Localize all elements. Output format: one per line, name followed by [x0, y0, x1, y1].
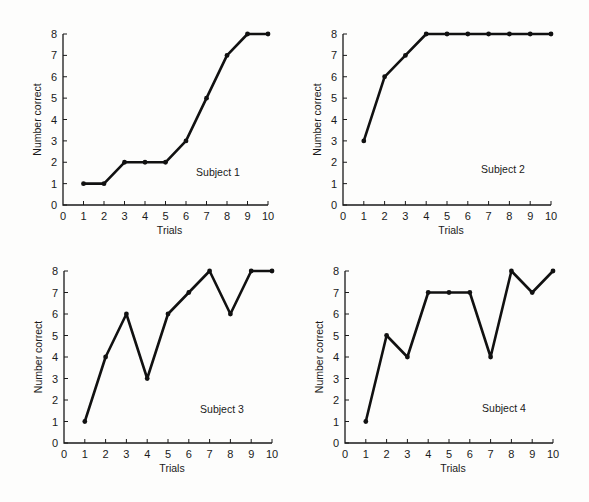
y-axis-label: Number correct — [31, 83, 43, 155]
subject-label: Subject 2 — [481, 163, 525, 175]
data-point — [403, 53, 408, 58]
axes — [64, 271, 272, 443]
data-point — [488, 355, 493, 360]
data-point — [207, 269, 212, 274]
data-point — [486, 32, 491, 37]
y-tick-label: 6 — [52, 308, 58, 320]
data-point — [445, 32, 450, 37]
data-point — [102, 181, 107, 186]
x-axis-label: Trials — [159, 462, 184, 474]
y-tick-label: 4 — [51, 114, 57, 126]
x-tick-label: 2 — [382, 210, 388, 222]
x-tick-label: 9 — [248, 448, 254, 460]
data-point — [384, 333, 389, 338]
x-tick-label: 7 — [486, 210, 492, 222]
x-tick-label: 5 — [444, 210, 450, 222]
x-tick-label: 4 — [425, 448, 431, 460]
y-tick-label: 6 — [331, 71, 337, 83]
data-point — [228, 312, 233, 317]
y-tick-label: 0 — [331, 199, 337, 211]
y-tick-label: 5 — [333, 330, 339, 342]
y-tick-label: 2 — [52, 394, 58, 406]
y-axis-label: Number correct — [32, 321, 44, 393]
y-tick-label: 0 — [52, 437, 58, 449]
x-tick-label: 7 — [488, 448, 494, 460]
x-axis-label: Trials — [438, 224, 463, 236]
y-tick-label: 1 — [51, 178, 57, 190]
y-tick-label: 5 — [51, 92, 57, 104]
x-tick-label: 2 — [103, 448, 109, 460]
data-point — [184, 138, 189, 143]
x-tick-label: 0 — [340, 210, 346, 222]
x-tick-label: 4 — [144, 448, 150, 460]
x-tick-label: 10 — [545, 210, 557, 222]
y-tick-label: 2 — [331, 156, 337, 168]
data-point — [166, 312, 171, 317]
data-point — [270, 269, 275, 274]
data-line — [364, 34, 551, 141]
data-point — [249, 269, 254, 274]
panel-subject-4: 012345678012345678910Subject 4TrialsNumb… — [313, 265, 559, 474]
y-axis-label: Number correct — [313, 321, 325, 393]
axes — [343, 34, 551, 205]
y-tick-label: 7 — [331, 49, 337, 61]
subject-label: Subject 3 — [200, 403, 244, 415]
x-tick-label: 9 — [527, 210, 533, 222]
x-tick-label: 0 — [60, 210, 66, 222]
data-point — [509, 269, 514, 274]
data-point — [225, 53, 230, 58]
x-tick-label: 7 — [203, 210, 209, 222]
x-tick-label: 3 — [123, 448, 129, 460]
data-point — [528, 32, 533, 37]
x-tick-label: 2 — [101, 210, 107, 222]
y-tick-label: 4 — [331, 114, 337, 126]
panel-subject-2: 012345678012345678910Subject 2TrialsNumb… — [311, 28, 557, 236]
data-point — [447, 290, 452, 295]
y-tick-label: 1 — [52, 416, 58, 428]
x-tick-label: 8 — [506, 210, 512, 222]
x-tick-label: 8 — [508, 448, 514, 460]
panel-subject-3: 012345678012345678910Subject 3TrialsNumb… — [32, 265, 278, 474]
x-tick-label: 3 — [404, 448, 410, 460]
x-tick-label: 1 — [82, 448, 88, 460]
data-point — [465, 32, 470, 37]
y-tick-label: 8 — [52, 265, 58, 277]
x-tick-label: 6 — [467, 448, 473, 460]
data-point — [551, 269, 556, 274]
y-axis-label: Number correct — [311, 83, 323, 155]
x-tick-label: 1 — [361, 210, 367, 222]
panel-subject-1: 012345678012345678910Subject 1TrialsNumb… — [31, 28, 274, 236]
x-tick-label: 3 — [402, 210, 408, 222]
x-tick-label: 4 — [423, 210, 429, 222]
figure-canvas: 012345678012345678910Subject 1TrialsNumb… — [0, 0, 589, 502]
y-tick-label: 0 — [51, 199, 57, 211]
data-point — [103, 355, 108, 360]
y-tick-label: 5 — [331, 92, 337, 104]
x-tick-label: 8 — [224, 210, 230, 222]
y-tick-label: 1 — [333, 416, 339, 428]
y-tick-label: 8 — [333, 265, 339, 277]
y-tick-label: 3 — [51, 135, 57, 147]
data-point — [405, 355, 410, 360]
y-tick-label: 0 — [333, 437, 339, 449]
y-tick-label: 8 — [51, 28, 57, 40]
subject-label: Subject 1 — [196, 166, 240, 178]
data-line — [85, 271, 272, 422]
data-point — [530, 290, 535, 295]
x-tick-label: 1 — [363, 448, 369, 460]
y-tick-label: 4 — [333, 351, 339, 363]
y-tick-label: 7 — [51, 49, 57, 61]
y-tick-label: 2 — [333, 394, 339, 406]
data-point — [549, 32, 554, 37]
data-point — [186, 290, 191, 295]
x-axis-label: Trials — [157, 224, 182, 236]
data-point — [467, 290, 472, 295]
subject-label: Subject 4 — [482, 402, 526, 414]
x-tick-label: 6 — [186, 448, 192, 460]
axes — [63, 34, 268, 205]
data-point — [382, 74, 387, 79]
y-tick-label: 3 — [52, 373, 58, 385]
y-tick-label: 5 — [52, 330, 58, 342]
y-tick-label: 7 — [333, 287, 339, 299]
x-axis-label: Trials — [440, 462, 465, 474]
